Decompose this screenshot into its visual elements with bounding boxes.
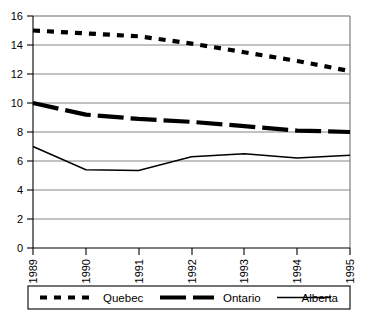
legend-label-alberta: Alberta xyxy=(302,292,339,304)
chart-canvas: 16 14 12 10 8 6 4 2 0 1989 1990 1991 199… xyxy=(0,0,367,314)
y-axis-tick-label: 10 xyxy=(11,97,23,109)
x-axis-tick-label: 1992 xyxy=(186,259,198,283)
y-axis-tick-label: 16 xyxy=(11,10,23,22)
x-axis: 1989 1990 1991 1992 1993 1994 1995 xyxy=(27,248,356,283)
y-axis-tick-label: 2 xyxy=(17,213,23,225)
chart-legend: Quebec Ontario Alberta xyxy=(28,286,350,309)
legend-label-ontario: Ontario xyxy=(223,292,261,304)
x-axis-tick-label: 1989 xyxy=(27,259,39,283)
x-axis-tick-label: 1993 xyxy=(238,259,250,283)
series-line-alberta xyxy=(33,147,350,171)
y-axis-tick-label: 14 xyxy=(11,39,23,51)
y-axis-tick-label: 12 xyxy=(11,68,23,80)
x-axis-tick-label: 1995 xyxy=(344,259,356,283)
legend-label-quebec: Quebec xyxy=(103,292,144,304)
y-axis-tick-label: 6 xyxy=(17,155,23,167)
y-axis-tick-label: 0 xyxy=(17,242,23,254)
x-axis-tick-label: 1994 xyxy=(291,259,303,283)
line-chart: 16 14 12 10 8 6 4 2 0 1989 1990 1991 199… xyxy=(0,0,367,314)
x-axis-tick-label: 1991 xyxy=(133,259,145,283)
x-axis-tick-label: 1990 xyxy=(80,259,92,283)
y-axis: 16 14 12 10 8 6 4 2 0 xyxy=(11,10,33,254)
series-group xyxy=(33,31,350,171)
y-axis-tick-label: 8 xyxy=(17,126,23,138)
series-line-quebec xyxy=(33,31,350,72)
y-axis-tick-label: 4 xyxy=(17,184,23,196)
series-line-ontario xyxy=(33,103,350,132)
